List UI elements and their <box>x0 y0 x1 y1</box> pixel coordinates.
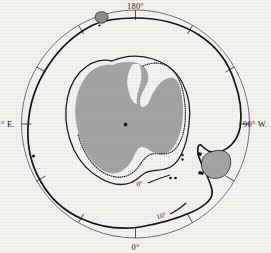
label-left-meridian: ° E. <box>1 119 15 129</box>
island-dot-south-a <box>169 177 172 180</box>
polar-map-svg: 180° 0° ° E. 90° W. 0° 10° <box>0 0 271 253</box>
island-dot-east-lower <box>181 158 183 160</box>
label-bottom-meridian: 0° <box>131 242 139 252</box>
label-top-meridian: 180° <box>127 1 144 11</box>
east-peninsula-island <box>201 150 230 178</box>
north-small-island <box>95 12 108 23</box>
island-dot-south-b <box>174 177 177 180</box>
map-figure: 180° 0° ° E. 90° W. 0° 10° <box>0 0 271 253</box>
north-island-dot <box>98 24 100 26</box>
island-dot-east-upper <box>181 154 183 156</box>
label-right-meridian: 90° W. <box>243 119 267 129</box>
island-dot-west <box>32 155 35 158</box>
pole-center-dot <box>124 123 128 127</box>
